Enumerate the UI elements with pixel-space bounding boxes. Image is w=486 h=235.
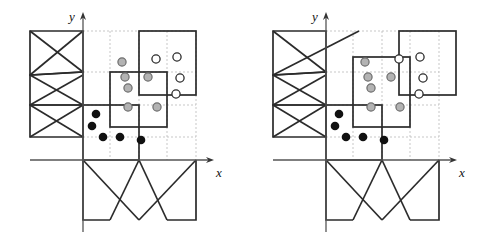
right-diagram-panel: y x (243, 0, 486, 235)
gray-point (361, 58, 369, 66)
left-polygons (30, 31, 83, 137)
black-point (359, 133, 368, 142)
white-point (172, 90, 180, 98)
gray-point (118, 58, 126, 66)
right-gray-points (361, 58, 404, 111)
bottom-right-edge (410, 160, 439, 220)
right-bottom-polygons (326, 160, 439, 220)
rect-white-shifted (399, 31, 456, 95)
left-bottom-polygons (83, 160, 196, 220)
right-y-axis-label: y (310, 9, 318, 24)
black-point (137, 136, 146, 145)
gray-point (121, 73, 129, 81)
white-point (176, 74, 184, 82)
bottom-diag-2 (382, 160, 410, 220)
bottom-diag-3 (326, 160, 382, 220)
rect-black-shifted (326, 105, 382, 160)
left-x-axis-label: x (215, 165, 222, 180)
bottom-left-edge (326, 160, 353, 220)
white-point (152, 55, 160, 63)
rect-black-lower (83, 105, 139, 160)
gray-point (124, 84, 132, 92)
gray-point (124, 103, 132, 111)
left-diagram-panel: y x (0, 0, 243, 235)
left-white-points (152, 53, 184, 98)
bottom-left-edge (83, 160, 110, 220)
black-point (116, 133, 125, 142)
bottom-diag-2 (139, 160, 167, 220)
black-point (342, 133, 351, 142)
bottom-diag-3 (83, 160, 139, 220)
left-diagram-svg: y x (0, 0, 243, 235)
gray-point (396, 103, 404, 111)
bottom-diag-4 (382, 160, 439, 220)
white-point (395, 55, 403, 63)
diag-a (273, 31, 359, 75)
black-point (380, 136, 389, 145)
bottom-diag-1 (353, 160, 382, 220)
black-point (331, 122, 340, 131)
black-point (88, 122, 97, 131)
gray-point (364, 73, 372, 81)
figure-root: y x (0, 0, 486, 235)
black-point (99, 133, 108, 142)
gray-point (144, 73, 152, 81)
bottom-diag-1 (110, 160, 139, 220)
right-x-axis-label: x (458, 165, 465, 180)
white-point (419, 74, 427, 82)
gray-point (387, 73, 395, 81)
gray-point (367, 103, 375, 111)
white-point (416, 53, 424, 61)
gray-point (367, 84, 375, 92)
left-y-axis-label: y (67, 9, 75, 24)
white-point (173, 53, 181, 61)
bottom-diag-4 (139, 160, 196, 220)
right-polygons (273, 31, 359, 137)
white-point (415, 90, 423, 98)
bottom-right-edge (167, 160, 196, 220)
gray-point (153, 103, 161, 111)
black-point (335, 110, 344, 119)
right-diagram-svg: y x (243, 0, 486, 235)
black-point (92, 110, 101, 119)
